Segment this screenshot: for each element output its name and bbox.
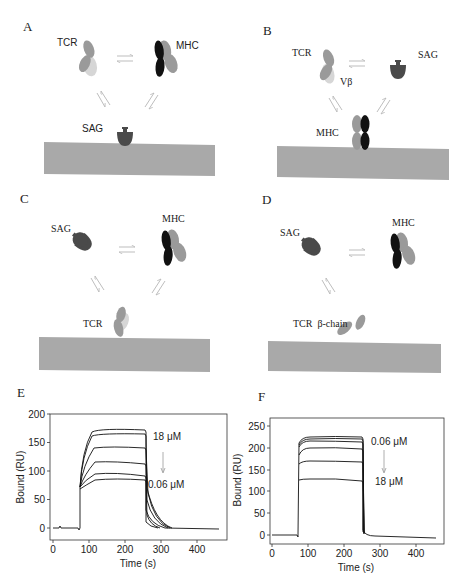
svg-text:50: 50 xyxy=(34,494,46,505)
svg-text:50: 50 xyxy=(254,508,266,519)
svg-text:100: 100 xyxy=(28,466,45,477)
svg-text:Bound (RU): Bound (RU) xyxy=(15,451,26,504)
svg-text:200: 200 xyxy=(336,548,353,559)
panel-b xyxy=(277,48,449,180)
svg-text:100: 100 xyxy=(248,486,265,497)
sag-molecule-icon xyxy=(390,60,406,79)
equilibrium-arrow-icon xyxy=(349,250,365,255)
svg-text:200: 200 xyxy=(28,409,45,420)
svg-text:Bound (RU): Bound (RU) xyxy=(232,454,243,507)
tcr-molecule-icon xyxy=(77,39,100,78)
label-mhc-b: MHC xyxy=(316,127,339,138)
svg-text:400: 400 xyxy=(189,544,206,555)
sensor-surface-a xyxy=(44,142,215,176)
panel-a xyxy=(44,39,215,176)
equilibrium-arrow-icon xyxy=(329,96,342,112)
label-tcr-c: TCR xyxy=(83,318,102,329)
panel-d xyxy=(268,232,441,373)
svg-text:Time (s): Time (s) xyxy=(338,562,374,573)
label-tcr-beta-chain-d: TCR β-chain xyxy=(293,318,348,329)
sag-molecule-icon xyxy=(68,228,95,254)
svg-text:200: 200 xyxy=(248,443,265,454)
svg-text:100: 100 xyxy=(81,544,98,555)
svg-text:300: 300 xyxy=(153,544,170,555)
svg-text:0: 0 xyxy=(269,548,275,559)
label-sag-c: SAG xyxy=(51,223,71,234)
mhc-molecule-icon xyxy=(160,229,188,267)
annotation-top-f: 0.06 μM xyxy=(371,436,407,447)
tcr-molecule-icon xyxy=(317,48,336,85)
sensorgram-curves-f xyxy=(272,437,436,539)
svg-text:250: 250 xyxy=(248,421,265,432)
equilibrium-arrow-icon xyxy=(152,279,165,295)
sag-molecule-icon xyxy=(297,233,324,259)
annotation-top-e: 18 μM xyxy=(153,431,181,442)
sensorgram-curves-e xyxy=(53,429,219,530)
sensor-surface-c xyxy=(39,337,210,372)
label-sag-b: SAG xyxy=(418,49,438,60)
plot-frame-f xyxy=(270,418,444,544)
equilibrium-arrow-icon xyxy=(349,61,365,66)
svg-text:100: 100 xyxy=(300,548,317,559)
equilibrium-arrow-icon xyxy=(91,276,104,292)
equilibrium-arrow-icon xyxy=(119,247,135,252)
annotation-bottom-f: 18 μM xyxy=(375,476,403,487)
plot-frame-e xyxy=(50,414,227,540)
label-mhc-d: MHC xyxy=(392,217,415,228)
label-sag-d: SAG xyxy=(280,227,300,238)
annotation-bottom-e: 0.06 μM xyxy=(148,479,184,490)
equilibrium-arrow-icon xyxy=(145,93,158,109)
sag-molecule-icon xyxy=(117,127,133,146)
binding-schematics xyxy=(0,0,463,390)
sensor-surface-d xyxy=(268,341,441,373)
svg-text:0: 0 xyxy=(39,523,45,534)
svg-text:Time (s): Time (s) xyxy=(120,558,156,569)
sensor-surface-b xyxy=(277,146,449,180)
svg-text:150: 150 xyxy=(28,437,45,448)
svg-text:150: 150 xyxy=(248,465,265,476)
label-mhc-a: MHC xyxy=(176,40,199,51)
equilibrium-arrow-icon xyxy=(377,98,390,114)
equilibrium-arrow-icon xyxy=(117,56,133,61)
tcr-molecule-icon xyxy=(112,306,131,338)
svg-text:400: 400 xyxy=(408,548,425,559)
svg-text:0: 0 xyxy=(50,544,56,555)
mhc-molecule-icon xyxy=(352,115,370,150)
svg-text:200: 200 xyxy=(117,544,134,555)
label-tcr-a: TCR xyxy=(57,37,78,48)
label-mhc-c: MHC xyxy=(162,213,185,224)
mhc-molecule-icon xyxy=(389,232,417,270)
label-sag-a: SAG xyxy=(82,123,103,134)
panel-c xyxy=(39,228,210,372)
svg-text:300: 300 xyxy=(372,548,389,559)
label-tcr-b: TCR xyxy=(292,47,311,58)
panel-letter-f: F xyxy=(258,389,265,405)
equilibrium-arrow-icon xyxy=(322,278,335,294)
svg-text:0: 0 xyxy=(259,530,265,541)
label-vbeta-b: Vβ xyxy=(340,76,352,87)
equilibrium-arrow-icon xyxy=(97,91,110,107)
